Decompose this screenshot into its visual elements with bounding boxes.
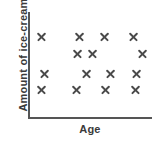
data-point-marker — [100, 85, 111, 96]
y-axis-title: Amount of ice-cream — [17, 0, 29, 114]
data-point-marker — [130, 85, 141, 96]
scatter-plot-figure: Amount of ice-cream Age — [0, 0, 160, 147]
data-point-marker — [36, 31, 47, 42]
data-point-marker — [39, 69, 50, 80]
data-point-marker — [131, 69, 142, 80]
data-point-marker — [87, 49, 98, 60]
data-point-marker — [81, 69, 92, 80]
data-point-marker — [99, 31, 110, 42]
data-point-marker — [36, 85, 47, 96]
x-axis-title: Age — [28, 123, 152, 135]
data-point-marker — [128, 31, 139, 42]
data-point-marker — [137, 49, 148, 60]
data-point-marker — [71, 85, 82, 96]
data-point-marker — [105, 69, 116, 80]
data-point-marker — [72, 49, 83, 60]
x-axis-line — [28, 117, 152, 119]
data-point-marker — [74, 31, 85, 42]
